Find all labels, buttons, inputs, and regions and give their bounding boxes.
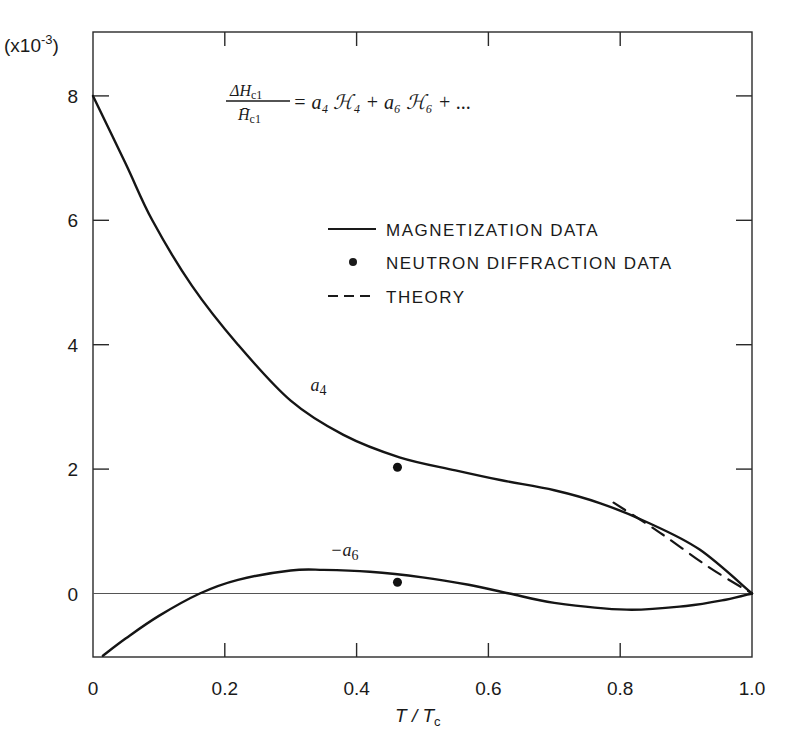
plot-border (93, 32, 752, 657)
equation-denominator: H̄c1 (237, 106, 261, 126)
equation-rhs: = a₄ ℋ₄ + a₆ ℋ₆ + ... (293, 91, 471, 113)
x-axis-title: T / Tc (395, 705, 441, 729)
chart: 00.20.40.60.81.002468 a4−a6 (x10-3) ΔHc1… (0, 0, 785, 743)
legend-dot-icon (349, 258, 357, 266)
y-multiplier: (x10-3) (4, 32, 59, 56)
neutron-data-point (393, 463, 402, 472)
axis-ticks: 00.20.40.60.81.002468 (67, 32, 765, 699)
x-tick-label: 0.8 (607, 678, 633, 699)
legend-label-magnetization: MAGNETIZATION DATA (386, 221, 599, 240)
equation: ΔHc1 H̄c1 = a₄ ℋ₄ + a₆ ℋ₆ + ... (226, 82, 471, 126)
y-tick-label: 8 (67, 86, 78, 107)
x-tick-label: 0.4 (343, 678, 370, 699)
magnetization-curve (103, 569, 752, 655)
y-tick-label: 0 (67, 584, 78, 605)
curve-label: a4 (310, 375, 326, 398)
theory-curve (614, 503, 752, 594)
y-tick-label: 2 (67, 459, 78, 480)
legend-label-theory: THEORY (386, 288, 466, 307)
legend-label-neutron: NEUTRON DIFFRACTION DATA (386, 254, 673, 273)
y-tick-label: 4 (67, 335, 78, 356)
x-tick-label: 0 (88, 678, 99, 699)
curve-label: −a6 (330, 540, 358, 563)
legend: MAGNETIZATION DATA NEUTRON DIFFRACTION D… (328, 221, 673, 307)
y-tick-label: 6 (67, 210, 78, 231)
x-tick-label: 1.0 (739, 678, 765, 699)
equation-numerator: ΔHc1 (229, 82, 262, 102)
x-tick-label: 0.2 (212, 678, 238, 699)
magnetization-curve (93, 96, 752, 594)
plot-frame (93, 32, 752, 657)
data-series (93, 96, 752, 656)
curve-annotations: a4−a6 (310, 375, 358, 563)
neutron-data-point (393, 578, 402, 587)
x-tick-label: 0.6 (475, 678, 501, 699)
